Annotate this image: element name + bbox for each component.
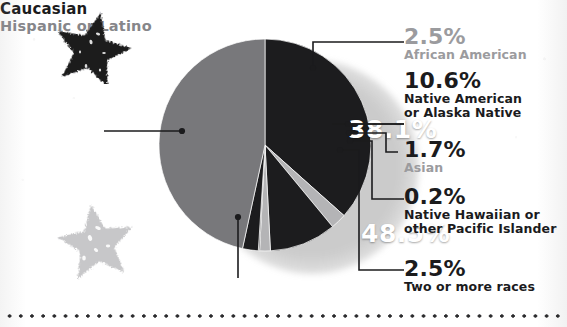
- callout-asian: 1.7% Asian: [404, 139, 466, 175]
- callout-two-or-more-races: 2.5% Two or more races: [404, 258, 535, 294]
- callout-value: 1.7%: [404, 139, 466, 161]
- callout-label: Two or more races: [404, 280, 535, 294]
- callout-label-line1: Native American: [404, 92, 522, 106]
- star-icon: [54, 198, 138, 282]
- callout-label: African American: [404, 48, 527, 62]
- callout-caucasian: Caucasian: [0, 0, 567, 18]
- callout-label-line1: Native Hawaiian or: [404, 208, 556, 222]
- infographic-canvas: 38.1% 48.5%: [0, 0, 567, 327]
- callout-african-american: 2.5% African American: [404, 26, 527, 62]
- callout-native-american: 10.6% Native American or Alaska Native: [404, 70, 522, 121]
- callout-label: Asian: [404, 161, 466, 175]
- pie-slice: [159, 39, 265, 249]
- right-edge-shading: [537, 0, 567, 327]
- callout-value: 2.5%: [404, 26, 527, 48]
- callout-native-hawaiian: 0.2% Native Hawaiian or other Pacific Is…: [404, 186, 556, 237]
- callout-label-line2: other Pacific Islander: [404, 222, 556, 236]
- callout-value: 0.2%: [404, 186, 556, 208]
- pie-slices: [158, 36, 374, 256]
- left-edge-shading: [0, 0, 26, 327]
- callout-value: 2.5%: [404, 258, 535, 280]
- pie-chart: 38.1% 48.5%: [158, 36, 374, 256]
- callout-label-line2: or Alaska Native: [404, 106, 522, 120]
- dotted-divider: [4, 314, 563, 318]
- callout-value: 10.6%: [404, 70, 522, 92]
